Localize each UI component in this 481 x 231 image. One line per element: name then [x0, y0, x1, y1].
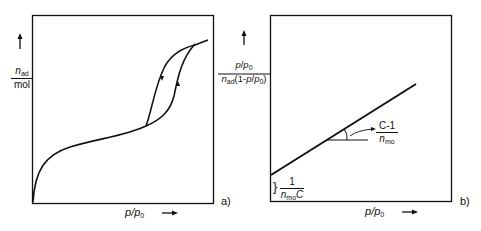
panel-a-x-label: p/p0	[125, 207, 144, 219]
panel-b-x-arrowhead-icon	[412, 210, 418, 215]
panel-b-slope-pointer	[350, 129, 373, 136]
panel-a-down-arrow-icon	[160, 76, 164, 81]
panel-a-y-label: nad mol	[11, 66, 33, 90]
panel-b-slope-label: C-1 nmo	[376, 121, 398, 145]
diagram-canvas	[0, 0, 481, 231]
panel-b-intercept-brace: }	[273, 180, 277, 193]
panel-a-tag: a)	[221, 196, 231, 207]
panel-b-angle-arc	[344, 129, 347, 140]
panel-a-isotherm-base	[33, 126, 146, 202]
slope-den-sub: mo	[385, 138, 395, 145]
y-label-sub: ad	[21, 70, 29, 77]
panel-b-tag: b)	[460, 196, 470, 207]
intercept-den-c: C	[296, 189, 303, 200]
panel-b-y-arrowhead-icon	[242, 30, 247, 36]
panel-b-intercept-label: 1 nmoC	[280, 177, 304, 201]
intercept-den-sub: mo	[286, 194, 296, 201]
panel-b-frame	[271, 16, 452, 202]
panel-a-y-arrowhead-icon	[18, 33, 23, 39]
x-label-sub: 0	[380, 211, 384, 218]
panel-a-adsorption-branch	[146, 44, 195, 126]
y-label-unit: mol	[11, 79, 33, 90]
slope-numerator: C-1	[376, 121, 398, 133]
panel-b-y-label: p/p0 nad(1-p/p0)	[217, 60, 271, 85]
x-label-sub: 0	[140, 212, 144, 219]
panel-a-frame	[33, 16, 214, 204]
panel-a-x-arrowhead-icon	[172, 211, 178, 216]
intercept-numerator: 1	[280, 177, 304, 189]
panel-b-x-label: p/p0	[365, 206, 384, 218]
